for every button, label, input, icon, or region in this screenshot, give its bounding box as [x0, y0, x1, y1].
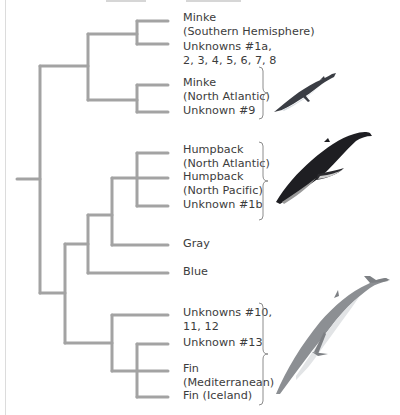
label-humpback-north-pacific: Humpback (North Pacific): [183, 170, 263, 197]
label-unknowns-1a-8: Unknowns #1a, 2, 3, 4, 5, 6, 7, 8: [183, 40, 276, 67]
brace-minke-group: [258, 66, 272, 120]
brace-fin-group: [258, 302, 272, 406]
humpback-whale-icon: [272, 128, 376, 212]
label-unknown-13: Unknown #13: [183, 336, 263, 350]
label-unknown-9: Unknown #9: [183, 104, 255, 118]
label-minke-southern-hemisphere: Minke (Southern Hemisphere): [183, 11, 315, 38]
fin-whale-icon: [272, 272, 392, 396]
label-fin-iceland: Fin (Iceland): [183, 389, 252, 403]
label-minke-north-atlantic: Minke (North Atlantic): [183, 76, 270, 103]
label-blue: Blue: [183, 265, 208, 279]
label-gray: Gray: [183, 237, 210, 251]
minke-whale-icon: [272, 72, 338, 114]
label-humpback-north-atlantic: Humpback (North Atlantic): [183, 143, 270, 170]
label-unknown-1b: Unknown #1b: [183, 198, 263, 212]
brace-humpback-group: [258, 141, 272, 221]
